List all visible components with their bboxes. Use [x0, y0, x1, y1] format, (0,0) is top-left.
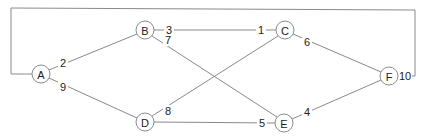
node-label-E: E: [280, 118, 287, 130]
weight-label-B-E: 7: [165, 34, 171, 46]
node-E: E: [275, 114, 293, 132]
weight-label-F-A: 10: [399, 70, 411, 82]
node-C: C: [276, 21, 294, 39]
node-A: A: [32, 65, 50, 83]
node-label-B: B: [141, 25, 148, 37]
node-D: D: [136, 113, 154, 131]
weight-label-B-C-near-C: 1: [258, 24, 264, 36]
node-B: B: [136, 21, 154, 39]
node-label-C: C: [281, 25, 289, 37]
node-F: F: [380, 67, 398, 85]
node-label-F: F: [386, 71, 393, 83]
weight-label-A-B: 2: [60, 57, 66, 69]
weight-labels: 2 9 3 1 7 6 8 5 4 10: [58, 24, 412, 129]
weight-label-C-F: 6: [304, 36, 310, 48]
weight-label-D-C: 8: [165, 105, 171, 117]
weight-label-A-D: 9: [60, 81, 66, 93]
edges: [11, 8, 415, 123]
edge-F-A: [11, 8, 415, 76]
weight-label-E-F: 4: [304, 106, 310, 118]
node-label-D: D: [141, 117, 149, 129]
weight-label-D-E: 5: [259, 117, 265, 129]
edge-D-E: [154, 122, 275, 123]
node-label-A: A: [37, 69, 45, 81]
graph-diagram: 2 9 3 1 7 6 8 5 4 10 A B C: [0, 0, 426, 138]
